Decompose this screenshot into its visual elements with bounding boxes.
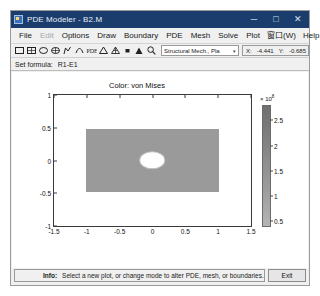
colorbar: 2.5 2 1.5 1 0.5 [262, 105, 271, 227]
solve-pde-icon[interactable] [122, 45, 133, 56]
exit-button[interactable]: Exit [268, 269, 306, 282]
menu-item-file[interactable]: File [15, 28, 36, 43]
menu-bar: File Edit Options Draw Boundary PDE Mesh… [11, 28, 309, 44]
mesh-refine-icon[interactable] [110, 45, 121, 56]
draw-ellipse-center-icon[interactable] [50, 45, 61, 56]
x-tick-label-0: 0 [151, 228, 155, 235]
colorbar-tick-mark [270, 120, 273, 121]
x-tick-mark [218, 95, 219, 98]
hole-geometry [140, 152, 165, 170]
colorbar-tick-label-1p5: 1.5 [274, 167, 283, 174]
x-tick-label-neg1p5: -1.5 [48, 228, 59, 235]
menu-item-plot[interactable]: Plot [242, 28, 264, 43]
close-icon[interactable]: ✕ [287, 11, 309, 28]
colorbar-tick-mark [270, 221, 273, 222]
plot-canvas: Color: von Mises 1 0.5 0 -0.5 [12, 72, 308, 268]
x-tick-label-neg1: -1 [84, 228, 90, 235]
window-controls: ─ □ ✕ [243, 11, 309, 28]
toolbar: PDE Structural Mech., Pla ▾ X: -4.441 Y:… [11, 44, 309, 58]
draw-ellipse-corner-icon[interactable] [38, 45, 49, 56]
y-tick-mark [54, 160, 57, 161]
draw-rectangle-corner-icon[interactable] [14, 45, 25, 56]
y-tick-label-1: 1 [47, 92, 51, 99]
colorbar-tick-mark [270, 145, 273, 146]
y-tick-mark [54, 226, 57, 227]
menu-item-boundary[interactable]: Boundary [120, 28, 162, 43]
application-mode-value: Structural Mech., Pla [164, 48, 220, 54]
minimize-icon[interactable]: ─ [243, 11, 265, 28]
window-title: PDE Modeler - B2.M [27, 15, 243, 24]
x-tick-mark [119, 95, 120, 98]
cursor-coordinates: X: -4.441 Y: -0.685 [242, 45, 309, 56]
menu-item-pde[interactable]: PDE [162, 28, 186, 43]
menu-item-help[interactable]: Help [299, 28, 320, 43]
x-tick-mark [251, 95, 252, 98]
colorbar-exponent-value: 8 [272, 94, 275, 99]
colorbar-tick-label-1: 1 [274, 193, 278, 200]
maximize-icon[interactable]: □ [265, 11, 287, 28]
set-formula-input[interactable] [56, 59, 305, 70]
plot-solution-icon[interactable] [134, 45, 145, 56]
x-tick-label-neg0p5: -0.5 [114, 228, 125, 235]
info-label: Info: [43, 272, 57, 279]
set-formula-label: Set formula: [15, 61, 53, 68]
x-tick-mark [152, 95, 153, 98]
menu-item-window[interactable]: 窗口(W) [264, 28, 299, 43]
menu-item-draw[interactable]: Draw [93, 28, 120, 43]
pde-modeler-window: PDE Modeler - B2.M ─ □ ✕ File Edit Optio… [10, 10, 310, 286]
x-tick-mark [185, 95, 186, 98]
set-formula-row: Set formula: [11, 58, 309, 71]
plate-geometry [86, 129, 220, 192]
colorbar-exponent: × 108 [260, 94, 274, 102]
coord-y-label: Y: [279, 48, 284, 54]
app-icon [14, 15, 23, 24]
draw-polygon-icon[interactable] [62, 45, 73, 56]
plot-axes: 1 0.5 0 -0.5 -1 -1.5 [53, 94, 252, 227]
colorbar-tick-mark [270, 170, 273, 171]
x-tick-label-0p5: 0.5 [181, 228, 190, 235]
colorbar-exponent-prefix: × 10 [260, 96, 272, 102]
draw-rectangle-center-icon[interactable] [26, 45, 37, 56]
menu-item-edit: Edit [36, 28, 58, 43]
info-field: Info: Select a new plot, or change mode … [14, 269, 265, 282]
svg-text:PDE: PDE [86, 48, 97, 54]
y-tick-label-0: 0 [47, 157, 51, 164]
info-text: Select a new plot, or change mode to alt… [62, 272, 264, 279]
y-tick-label-0p5: 0.5 [42, 124, 51, 131]
x-tick-mark [86, 95, 87, 98]
coord-x-label: X: [246, 48, 252, 54]
mesh-initialize-icon[interactable] [98, 45, 109, 56]
colorbar-tick-label-0p5: 0.5 [274, 218, 283, 225]
menu-item-options[interactable]: Options [58, 28, 94, 43]
x-tick-label-1p5: 1.5 [246, 228, 255, 235]
status-bar: Info: Select a new plot, or change mode … [11, 268, 309, 285]
y-tick-mark [54, 193, 57, 194]
y-tick-label-neg0p5: -0.5 [40, 190, 51, 197]
colorbar-tick-label-2: 2 [274, 142, 278, 149]
x-tick-mark [54, 95, 55, 98]
coord-x-value: -4.441 [257, 48, 274, 54]
zoom-icon[interactable] [146, 45, 157, 56]
chevron-down-icon: ▾ [233, 48, 236, 54]
boundary-mode-icon[interactable] [74, 45, 85, 56]
x-tick-label-1: 1 [216, 228, 220, 235]
plot-title: Color: von Mises [12, 81, 262, 90]
title-bar: PDE Modeler - B2.M ─ □ ✕ [11, 11, 309, 28]
menu-item-solve[interactable]: Solve [214, 28, 242, 43]
pde-mode-icon[interactable]: PDE [86, 45, 97, 56]
y-tick-mark [54, 127, 57, 128]
menu-item-mesh[interactable]: Mesh [187, 28, 215, 43]
coord-y-value: -0.685 [289, 48, 306, 54]
colorbar-tick-label-2p5: 2.5 [274, 117, 283, 124]
application-mode-select[interactable]: Structural Mech., Pla ▾ [161, 45, 239, 56]
colorbar-tick-mark [270, 196, 273, 197]
